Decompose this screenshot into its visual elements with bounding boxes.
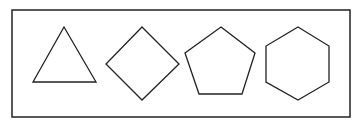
pentagon-shape xyxy=(185,27,255,94)
diamond-shape xyxy=(106,27,179,100)
triangle-shape xyxy=(33,27,96,82)
shapes-diagram xyxy=(0,0,359,127)
hexagon-shape xyxy=(266,27,329,100)
diagram-frame xyxy=(12,10,350,117)
